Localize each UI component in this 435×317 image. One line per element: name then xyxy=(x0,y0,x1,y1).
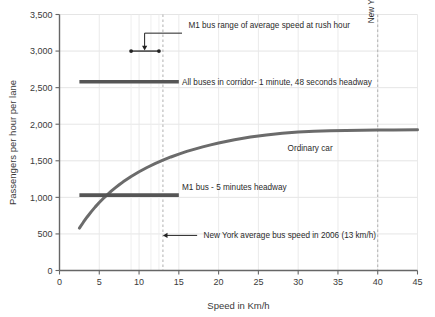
y-tick-label-2000: 2,000 xyxy=(30,120,53,130)
y-tick-label-500: 500 xyxy=(37,229,52,239)
y-tick-label-2500: 2,500 xyxy=(30,83,53,93)
x-tick-label-35: 35 xyxy=(333,277,343,287)
y-tick-label-3500: 3,500 xyxy=(30,10,53,20)
passengers-per-hour-vs-speed-chart: New York speed limit05001,0001,5002,0002… xyxy=(0,0,435,317)
x-tick-label-30: 30 xyxy=(293,277,303,287)
x-tick-label-25: 25 xyxy=(253,277,263,287)
x-tick-label-15: 15 xyxy=(174,277,184,287)
series-label-all-buses-in-corridor: All buses in corridor- 1 minute, 48 seco… xyxy=(182,78,373,87)
y-tick-label-1000: 1,000 xyxy=(30,193,53,203)
chart-container: New York speed limit05001,0001,5002,0002… xyxy=(0,0,435,317)
annotation-label-ny-average-bus-speed: New York average bus speed in 2006 (13 k… xyxy=(203,231,376,240)
y-tick-label-1500: 1,500 xyxy=(30,156,53,166)
x-axis-title: Speed in Km/h xyxy=(207,300,269,311)
y-axis-title: Passengers per hour per lane xyxy=(7,80,18,205)
x-tick-label-10: 10 xyxy=(134,277,144,287)
x-tick-label-5: 5 xyxy=(97,277,102,287)
y-tick-label-3000: 3,000 xyxy=(30,46,53,56)
series-label-ordinary-car: Ordinary car xyxy=(288,144,333,153)
new-york-speed-limit-line-label: New York speed limit xyxy=(367,0,376,23)
x-tick-label-0: 0 xyxy=(57,277,62,287)
y-tick-label-0: 0 xyxy=(47,266,52,276)
x-tick-label-40: 40 xyxy=(373,277,383,287)
x-tick-label-20: 20 xyxy=(214,277,224,287)
x-tick-label-45: 45 xyxy=(412,277,422,287)
annotation-label-m1-bus-range: M1 bus range of average speed at rush ho… xyxy=(188,21,350,30)
series-label-m1-bus-5-minutes-headway: M1 bus - 5 minutes headway xyxy=(182,183,288,192)
annotation-range-bar-cap-left xyxy=(129,49,133,53)
annotation-range-bar-cap-right xyxy=(157,49,161,53)
